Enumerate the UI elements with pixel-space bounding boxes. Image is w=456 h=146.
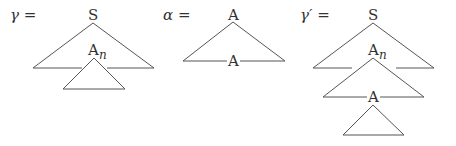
gamma-subtree-triangle [63,58,125,89]
gamma-prime-adjoin-node-subscript: n [379,48,387,62]
tree-adjunction-diagram: γ = S A n α = A A γ′ = S A n A [0,0,456,146]
gamma-prime-subtree-triangle [343,105,404,135]
gamma-prime-tree: γ′ = S A n A [300,6,434,135]
alpha-foot-label: A [227,52,239,70]
gamma-prime-root-label: S [368,6,378,24]
gamma-equation-label: γ = [10,6,36,24]
gamma-prime-adjoin-node-label: A [367,41,379,59]
gamma-prime-equation-label: γ′ = [300,6,330,24]
gamma-adjoin-node-subscript: n [99,48,107,62]
gamma-tree: γ = S A n [10,6,154,89]
gamma-adjoin-node-label: A [87,41,99,59]
gamma-prime-foot-label: A [367,88,379,106]
alpha-tree: α = A A [163,6,285,70]
gamma-root-label: S [88,6,98,24]
alpha-root-label: A [227,6,239,24]
alpha-equation-label: α = [163,6,190,24]
